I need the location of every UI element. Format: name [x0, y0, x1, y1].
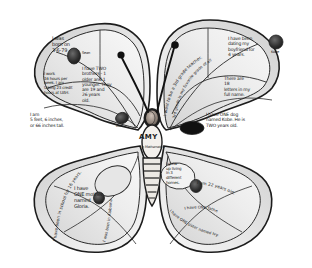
antenna-knob-left-icon — [117, 51, 124, 58]
artwork-canvas: I want to be a 3rd grade teacher. 3rd gr… — [0, 0, 312, 268]
wing-lower-left — [34, 146, 147, 252]
photo-kobe — [269, 35, 283, 49]
photo-sean — [68, 48, 81, 64]
butterfly-drawing: I want to be a 3rd grade teacher. 3rd gr… — [0, 0, 312, 268]
wing-upper-left — [35, 24, 150, 130]
photo-mom — [94, 192, 105, 204]
antenna-knob-right-icon — [171, 41, 179, 49]
photo-dog — [180, 122, 204, 135]
